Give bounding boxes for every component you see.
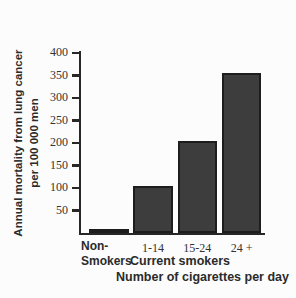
bar-15-24 <box>178 141 218 233</box>
lung-cancer-mortality-bar-chart: Annual mortality from lung cancer per 10… <box>0 0 296 298</box>
bar-1-14 <box>133 186 173 233</box>
bar-24 <box>222 73 262 233</box>
x-axis-label: Number of cigarettes per day <box>100 270 296 284</box>
y-tick-label-250: 250 <box>30 113 68 128</box>
group-label-current-smokers: Current smokers <box>110 254 250 268</box>
y-tick-label-100: 100 <box>30 180 68 195</box>
y-axis-label-line1: Annual mortality from lung cancer <box>11 33 27 253</box>
y-axis-line <box>79 51 81 235</box>
y-tick-label-50: 50 <box>30 203 68 218</box>
y-tick-label-350: 350 <box>30 68 68 83</box>
y-tick-label-150: 150 <box>30 158 68 173</box>
y-tick-label-300: 300 <box>30 90 68 105</box>
y-tick-label-200: 200 <box>30 135 68 150</box>
x-axis-line <box>79 233 265 235</box>
y-tick-label-400: 400 <box>30 45 68 60</box>
